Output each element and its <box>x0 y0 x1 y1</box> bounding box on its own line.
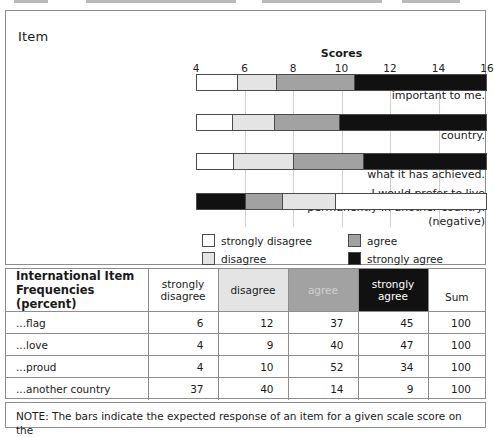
x-tick-label: 16 <box>480 62 493 74</box>
table-header-strongly-disagree: strongly disagree <box>148 269 218 312</box>
table-cell-a: 40 <box>288 334 358 356</box>
bar-row <box>196 74 487 91</box>
frequency-table-panel: International Item Frequencies (percent)… <box>5 268 486 399</box>
table-row-label: ...love <box>6 334 148 356</box>
table-header-row: International Item Frequencies (percent)… <box>6 269 485 312</box>
x-tick-label: 4 <box>193 62 200 74</box>
table-header-agree: agree <box>288 269 358 312</box>
table-header-strongly-agree: strongly agree <box>358 269 428 312</box>
legend-label: strongly disagree <box>221 235 312 247</box>
table-cell-sd: 4 <box>148 356 218 378</box>
item-label-line: what it has achieved. <box>305 168 485 182</box>
bar-segment-sd <box>197 115 232 130</box>
legend-swatch-icon <box>202 234 215 247</box>
item-label-line: (negative) <box>305 215 485 229</box>
table-row: ...another country3740149100 <box>6 378 485 400</box>
bar-segment-sa <box>197 194 245 209</box>
table-cell-sa: 9 <box>358 378 428 400</box>
bar-segment-d <box>232 115 274 130</box>
legend-item-disagree: disagree <box>202 252 266 265</box>
bar-segment-a <box>245 194 282 209</box>
table-cell-sd: 4 <box>148 334 218 356</box>
table-row: ...proud4105234100 <box>6 356 485 378</box>
table-cell-sum: 100 <box>428 334 485 356</box>
chart-legend: strongly disagree disagree agree strongl… <box>196 234 487 268</box>
frequency-table: International Item Frequencies (percent)… <box>6 269 485 400</box>
table-cell-d: 9 <box>218 334 288 356</box>
bar-segment-sa <box>354 75 486 90</box>
table-row-label: ...proud <box>6 356 148 378</box>
bar-segment-divider <box>274 115 275 130</box>
table-cell-a: 14 <box>288 378 358 400</box>
bar-segment-sa <box>339 115 486 130</box>
chart-panel: Item Scores 46810121416 The flag of this… <box>5 10 486 265</box>
legend-item-strongly-agree: strongly agree <box>348 252 443 265</box>
bar-segment-sd <box>197 154 233 169</box>
bar-track <box>196 114 487 131</box>
legend-swatch-icon <box>348 252 361 265</box>
item-label-line: important to me. <box>305 89 485 103</box>
bar-segment-divider <box>233 154 234 169</box>
table-cell-sa: 47 <box>358 334 428 356</box>
table-title-line: International Item <box>16 269 140 283</box>
bar-segment-divider <box>293 154 294 169</box>
table-cell-a: 37 <box>288 312 358 334</box>
x-tick-label: 8 <box>290 62 297 74</box>
table-cell-sum: 100 <box>428 378 485 400</box>
table-header-line: agree <box>297 284 350 296</box>
table-cell-sum: 100 <box>428 312 485 334</box>
table-cell-sa: 34 <box>358 356 428 378</box>
bar-segment-divider <box>335 194 336 209</box>
table-cell-d: 12 <box>218 312 288 334</box>
page-top-clipped-rule <box>0 0 491 4</box>
table-cell-sa: 45 <box>358 312 428 334</box>
table-cell-sd: 37 <box>148 378 218 400</box>
legend-swatch-icon <box>202 252 215 265</box>
table-cell-sum: 100 <box>428 356 485 378</box>
table-row: ...love494047100 <box>6 334 485 356</box>
table-header-line: Sum <box>437 291 478 303</box>
bar-segment-divider <box>363 154 364 169</box>
bar-segment-divider <box>232 115 233 130</box>
bar-track <box>196 193 487 210</box>
bar-segment-divider <box>339 115 340 130</box>
table-cell-sd: 6 <box>148 312 218 334</box>
table-cell-d: 10 <box>218 356 288 378</box>
bar-segment-a <box>293 154 363 169</box>
legend-label: disagree <box>221 253 266 265</box>
table-header-line: disagree <box>227 284 280 296</box>
bar-row <box>196 153 487 170</box>
legend-label: agree <box>367 235 397 247</box>
table-row-label: ...flag <box>6 312 148 334</box>
table-header-line: agree <box>367 290 420 302</box>
table-header-disagree: disagree <box>218 269 288 312</box>
x-tick-label: 12 <box>383 62 396 74</box>
table-row: ...flag6123745100 <box>6 312 485 334</box>
bar-segment-sa <box>363 154 486 169</box>
bar-row <box>196 193 487 210</box>
x-tick-label: 10 <box>335 62 348 74</box>
bar-row <box>196 114 487 131</box>
bar-segment-d <box>282 194 335 209</box>
table-header-line: strongly <box>367 278 420 290</box>
bar-track <box>196 74 487 91</box>
legend-item-agree: agree <box>348 234 397 247</box>
legend-swatch-icon <box>348 234 361 247</box>
bar-track <box>196 153 487 170</box>
table-header-line: disagree <box>157 290 210 302</box>
table-title-cell: International Item Frequencies (percent) <box>6 269 148 312</box>
table-header-sum: Sum <box>428 269 485 312</box>
x-tick-label: 6 <box>241 62 248 74</box>
bar-segment-divider <box>245 194 246 209</box>
x-tick-label: 14 <box>432 62 445 74</box>
chart-item-heading: Item <box>18 29 48 44</box>
table-header-line: strongly <box>157 278 210 290</box>
bar-segment-d <box>237 75 277 90</box>
bar-segment-divider <box>276 75 277 90</box>
bar-segment-d <box>233 154 293 169</box>
item-label-line: country. <box>305 129 485 143</box>
bar-segment-sd <box>335 194 486 209</box>
chart-scores-heading: Scores <box>196 47 487 60</box>
note-text: NOTE: The bars indicate the expected res… <box>16 409 477 437</box>
bar-segment-a <box>276 75 353 90</box>
